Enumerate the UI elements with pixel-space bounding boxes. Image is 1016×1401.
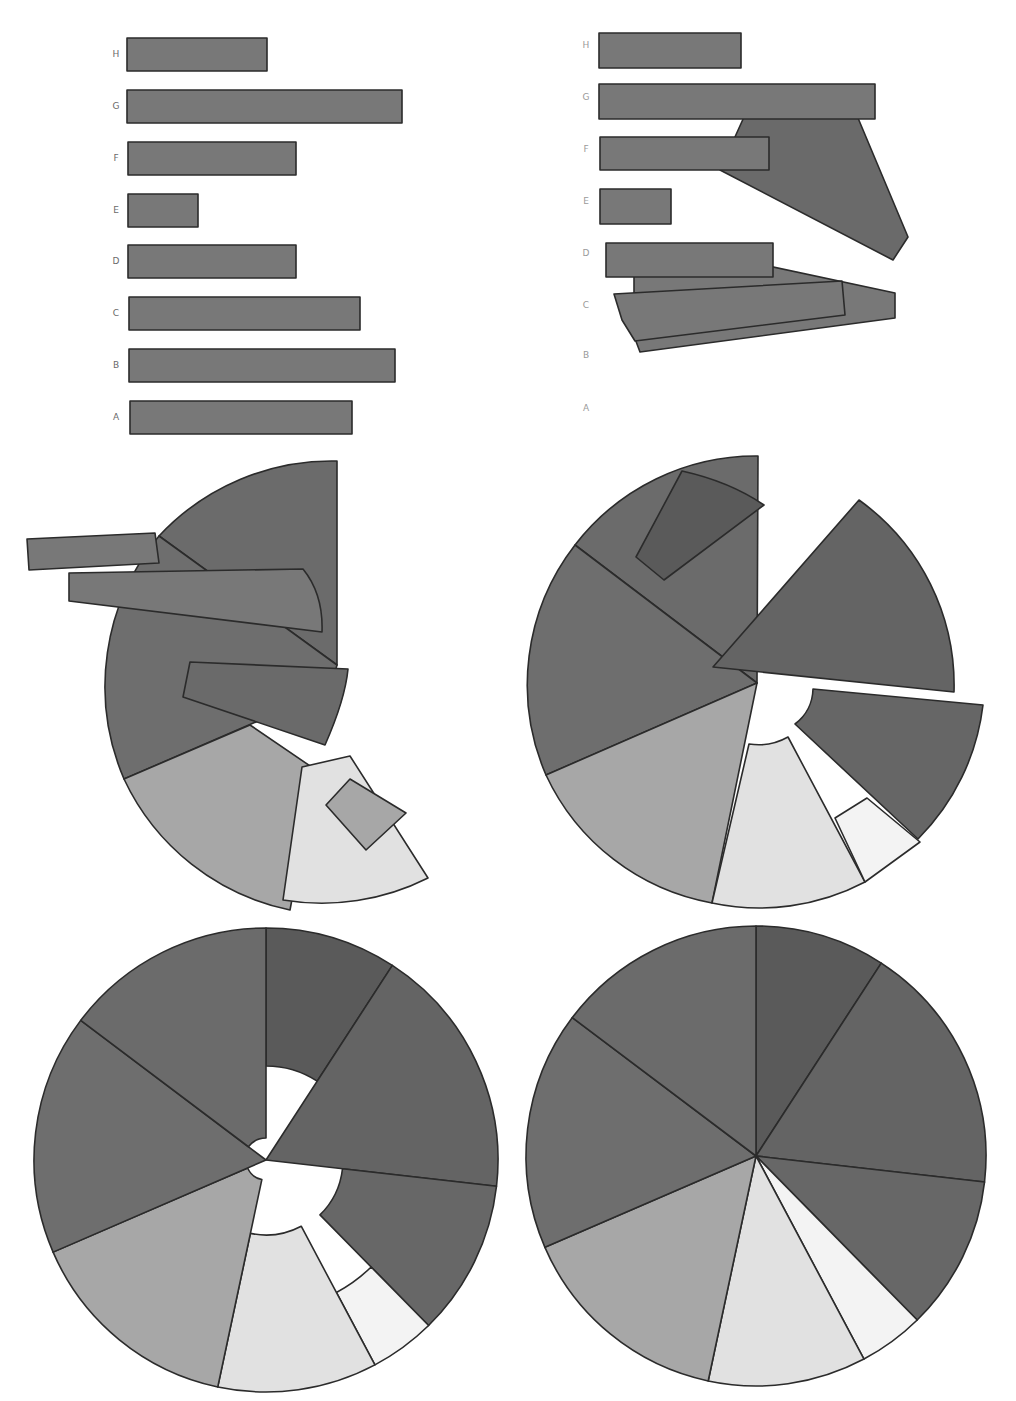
bar-h — [599, 33, 741, 68]
bar-e — [128, 194, 198, 227]
bar-to-pie-transition-figure: HGFEDCBA HGFEDCBA — [0, 0, 1016, 1401]
panel-pie-chart — [526, 926, 986, 1386]
bar-h — [127, 38, 267, 71]
axis-label-g: G — [583, 92, 590, 102]
panel-bar-morph-start: HGFEDCBA — [583, 33, 908, 413]
axis-label-e: E — [113, 205, 119, 215]
axis-label-g: G — [113, 101, 120, 111]
bar-b — [129, 349, 395, 382]
bar-a — [130, 401, 352, 434]
bar-f — [600, 137, 769, 170]
bar-g — [599, 84, 875, 119]
axis-label-c: C — [583, 300, 589, 310]
panel-morph-exploded-pie — [527, 456, 983, 908]
axis-label-a: A — [113, 412, 120, 422]
axis-label-f: F — [113, 153, 118, 163]
panel-morph-partial-pie — [27, 461, 428, 910]
panel-morph-ring-pie — [34, 928, 498, 1392]
bar-e — [600, 189, 671, 224]
axis-label-b: B — [583, 350, 589, 360]
bar-f — [128, 142, 296, 175]
axis-label-d: D — [113, 256, 120, 266]
axis-label-a: A — [583, 403, 590, 413]
axis-label-h: H — [583, 40, 590, 50]
bar-g — [127, 90, 402, 123]
axis-label-c: C — [113, 308, 119, 318]
axis-label-h: H — [113, 49, 120, 59]
bar-c — [129, 297, 360, 330]
piece-h — [27, 533, 159, 570]
axis-label-d: D — [583, 248, 590, 258]
axis-label-b: B — [113, 360, 119, 370]
axis-label-e: E — [583, 196, 589, 206]
bar-d — [606, 243, 773, 277]
panel-bar-chart: HGFEDCBA — [113, 38, 402, 434]
bar-d — [128, 245, 296, 278]
axis-label-f: F — [583, 144, 588, 154]
